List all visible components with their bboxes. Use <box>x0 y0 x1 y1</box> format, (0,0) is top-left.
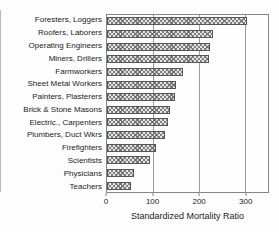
category-slot: Teachers <box>0 180 104 193</box>
category-slot: Painters, Plasterers <box>0 91 104 104</box>
bar-slot <box>107 66 268 79</box>
bar-slot <box>107 40 268 53</box>
x-tick-label-300: 300 <box>239 197 252 206</box>
bar-physicians <box>107 169 134 177</box>
category-label: Roofers, Laborers <box>38 29 102 37</box>
category-labels: Foresters, LoggersRoofers, LaborersOpera… <box>0 14 104 193</box>
bar-painters-plasterers <box>107 93 175 101</box>
bar-sheet-metal-workers <box>107 81 176 89</box>
category-slot: Electric., Carpenters <box>0 116 104 129</box>
x-tick-label-0: 0 <box>104 197 108 206</box>
bar-slot <box>107 116 268 129</box>
bar-slot <box>107 103 268 116</box>
category-slot: Farmworkers <box>0 65 104 78</box>
category-label: Plumbers, Duct Wkrs <box>27 131 102 139</box>
bar-slot <box>107 167 268 180</box>
category-slot: Sheet Metal Workers <box>0 78 104 91</box>
bar-slot <box>107 53 268 66</box>
x-tick-label-200: 200 <box>192 197 205 206</box>
category-label: Brick & Stone Masons <box>23 106 102 114</box>
bar-plumbers-duct-wkrs <box>107 131 165 139</box>
category-label: Scientists <box>68 157 102 165</box>
bar-slot <box>107 28 268 41</box>
bar-foresters-loggers <box>107 17 247 25</box>
bar-slot <box>107 91 268 104</box>
category-label: Physicians <box>64 170 102 178</box>
category-slot: Miners, Drillers <box>0 52 104 65</box>
category-slot: Roofers, Laborers <box>0 27 104 40</box>
category-slot: Brick & Stone Masons <box>0 103 104 116</box>
x-tick-mark-0 <box>106 193 107 196</box>
category-label: Farmworkers <box>55 68 102 76</box>
x-tick-mark-300 <box>245 193 246 196</box>
x-tick-mark-200 <box>199 193 200 196</box>
bar-operating-engineers <box>107 43 210 51</box>
bar-miners-drillers <box>107 55 209 63</box>
bar-slot <box>107 154 268 167</box>
bar-slot <box>107 141 268 154</box>
category-label: Miners, Drillers <box>49 55 102 63</box>
bar-slot <box>107 129 268 142</box>
x-tick-label-100: 100 <box>146 197 159 206</box>
category-label: Teachers <box>70 183 102 191</box>
category-label: Electric., Carpenters <box>30 119 102 127</box>
mortality-bar-chart: Foresters, LoggersRoofers, LaborersOpera… <box>0 0 279 232</box>
category-label: Foresters, Loggers <box>35 16 102 24</box>
x-axis-title: Standardized Mortality Ratio <box>106 211 269 221</box>
bar-firefighters <box>107 144 156 152</box>
x-axis: 0100200300 <box>106 193 269 207</box>
category-label: Firefighters <box>62 144 102 152</box>
category-slot: Operating Engineers <box>0 40 104 53</box>
bar-teachers <box>107 182 131 190</box>
category-slot: Foresters, Loggers <box>0 14 104 27</box>
bar-brick-stone-masons <box>107 106 170 114</box>
category-label: Operating Engineers <box>29 42 102 50</box>
bar-slot <box>107 179 268 192</box>
bar-slot <box>107 78 268 91</box>
category-slot: Scientists <box>0 155 104 168</box>
bar-slot <box>107 15 268 28</box>
category-label: Painters, Plasterers <box>32 93 102 101</box>
bar-scientists <box>107 156 150 164</box>
bars <box>107 15 268 192</box>
x-tick-mark-100 <box>152 193 153 196</box>
category-label: Sheet Metal Workers <box>27 80 102 88</box>
bar-roofers-laborers <box>107 30 213 38</box>
category-slot: Plumbers, Duct Wkrs <box>0 129 104 142</box>
category-slot: Physicians <box>0 167 104 180</box>
plot-area <box>106 14 269 193</box>
bar-farmworkers <box>107 68 183 76</box>
bar-electric-carpenters <box>107 118 168 126</box>
category-slot: Firefighters <box>0 142 104 155</box>
